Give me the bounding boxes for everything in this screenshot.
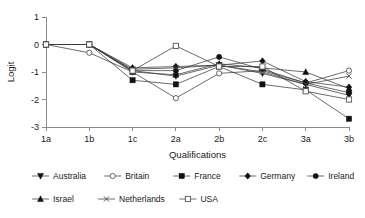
marker-circle-open — [217, 71, 222, 76]
marker-circle-filled — [313, 173, 318, 178]
y-tick-label: -1 — [31, 67, 39, 77]
legend-item-australia[interactable]: Australia — [32, 171, 86, 181]
chart-figure: 10-1-2-31a1b1c2a2b2c3a3bQualificationsLo… — [0, 0, 365, 218]
marker-square-open — [260, 64, 265, 69]
legend-item-britain[interactable]: Britain — [104, 171, 149, 181]
marker-circle-open — [87, 50, 92, 55]
series-line-netherlands — [46, 45, 349, 85]
marker-circle-open — [173, 96, 178, 101]
legend-label: Germany — [260, 171, 296, 181]
legend-item-netherlands[interactable]: Netherlands — [98, 194, 165, 204]
marker-square-open — [43, 42, 48, 47]
marker-square-open — [173, 43, 178, 48]
marker-square-filled — [179, 173, 184, 178]
x-axis-title: Qualifications — [169, 149, 226, 160]
x-tick-label: 2c — [258, 134, 268, 144]
y-tick-label: -2 — [31, 95, 39, 105]
legend-label: Australia — [53, 171, 86, 181]
legend: AustraliaBritainFranceGermanyIrelandIsra… — [32, 171, 354, 204]
marker-circle-open — [346, 68, 351, 73]
legend-item-usa[interactable]: USA — [179, 194, 218, 204]
x-tick-label: 3b — [344, 134, 354, 144]
y-tick-label: -3 — [31, 122, 39, 132]
marker-square-filled — [130, 78, 135, 83]
x-tick-label: 3a — [301, 134, 311, 144]
marker-diamond-filled — [245, 173, 251, 180]
line-chart: 10-1-2-31a1b1c2a2b2c3a3bQualificationsLo… — [0, 0, 365, 218]
y-tick-label: 0 — [34, 40, 39, 50]
legend-label: France — [194, 171, 221, 181]
legend-label: Netherlands — [119, 194, 165, 204]
x-tick-label: 1a — [41, 134, 51, 144]
x-tick-label: 1b — [84, 134, 94, 144]
legend-label: Britain — [125, 171, 149, 181]
marker-diamond-filled — [260, 58, 266, 65]
marker-square-open — [87, 42, 92, 47]
marker-square-open — [303, 89, 308, 94]
legend-item-ireland[interactable]: Ireland — [307, 171, 354, 181]
marker-square-open — [185, 196, 190, 201]
legend-label: Ireland — [328, 171, 354, 181]
legend-item-france[interactable]: France — [173, 171, 221, 181]
legend-label: Israel — [53, 194, 74, 204]
x-tick-label: 2a — [171, 134, 181, 144]
y-axis-title: Logit — [5, 61, 16, 82]
marker-square-open — [346, 97, 351, 102]
marker-square-open — [130, 68, 135, 73]
legend-item-germany[interactable]: Germany — [239, 171, 296, 181]
legend-item-israel[interactable]: Israel — [32, 194, 74, 204]
y-tick-label: 1 — [34, 12, 39, 22]
series-markers-group — [43, 41, 352, 121]
marker-square-filled — [173, 82, 178, 87]
marker-circle-open — [110, 173, 115, 178]
marker-square-filled — [346, 116, 351, 121]
x-tick-label: 2b — [214, 134, 224, 144]
legend-label: USA — [200, 194, 218, 204]
marker-square-open — [217, 64, 222, 69]
marker-circle-filled — [217, 54, 222, 59]
marker-square-filled — [260, 82, 265, 87]
x-tick-label: 1c — [128, 134, 138, 144]
